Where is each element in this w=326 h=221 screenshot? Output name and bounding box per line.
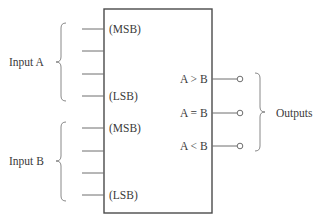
output-eq-terminal-icon: [237, 110, 243, 116]
input-b-lsb-label: (LSB): [109, 189, 138, 202]
input-a-brace: [56, 23, 66, 101]
input-b-lines: [82, 128, 104, 195]
output-lt-terminal-icon: [237, 143, 243, 149]
output-gt-label: A > B: [180, 73, 208, 85]
input-b-label: Input B: [9, 155, 44, 168]
outputs-brace: [255, 73, 265, 151]
output-lt-label: A < B: [180, 140, 208, 152]
comparator-diagram: Input A (MSB) (LSB) Input B (MSB) (LSB) …: [0, 0, 326, 221]
input-a-label: Input A: [9, 56, 45, 69]
outputs-label: Outputs: [276, 107, 313, 120]
output-gt-terminal-icon: [237, 76, 243, 82]
input-b-brace: [56, 122, 66, 201]
input-a-lsb-label: (LSB): [109, 90, 138, 103]
input-a-msb-label: (MSB): [109, 23, 141, 36]
input-a-lines: [82, 29, 104, 96]
input-b-msb-label: (MSB): [109, 122, 141, 135]
output-eq-label: A = B: [180, 107, 208, 119]
